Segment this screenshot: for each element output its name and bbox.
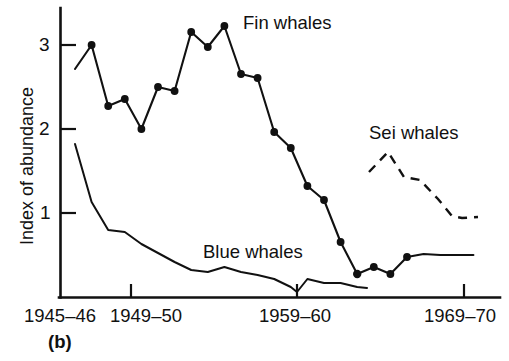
data-point-fin: [387, 270, 395, 278]
data-point-fin: [204, 43, 212, 51]
series-label-fin-whales: Fin whales: [243, 14, 331, 33]
data-point-fin: [171, 87, 179, 95]
figure-panel-b: Index of abundance 3 2 1 1945–46 1949–50…: [0, 0, 509, 361]
data-point-fin: [337, 238, 345, 246]
data-point-fin: [353, 270, 361, 278]
series-line-sei-whales: [369, 152, 478, 218]
data-point-fin: [138, 125, 146, 133]
data-point-fin: [187, 28, 195, 36]
data-point-fin: [154, 83, 162, 91]
data-point-fin: [403, 253, 411, 261]
x-tick-label-1969-70: 1969–70: [424, 307, 496, 326]
x-tick-label-1945-46: 1945–46: [24, 307, 96, 326]
x-tick-label-1959-60: 1959–60: [259, 307, 331, 326]
data-point-fin: [304, 182, 312, 190]
series-label-sei-whales: Sei whales: [369, 124, 458, 143]
data-point-fin: [104, 102, 112, 110]
data-point-fin: [370, 263, 378, 271]
series-label-blue-whales: Blue whales: [203, 243, 303, 262]
y-tick-label-1: 1: [40, 203, 51, 222]
data-point-fin: [121, 95, 129, 103]
data-point-fin: [221, 22, 229, 30]
data-point-fin: [254, 74, 262, 82]
figure-caption: (b): [48, 333, 72, 352]
data-point-fin: [287, 144, 295, 152]
data-point-fin: [320, 196, 328, 204]
x-tick-label-1949-50: 1949–50: [110, 307, 182, 326]
y-tick-label-3: 3: [39, 35, 50, 54]
series-line-fin-whales: [75, 26, 473, 274]
y-tick-label-2: 2: [39, 119, 50, 138]
data-point-fin: [237, 70, 245, 78]
data-point-fin: [270, 128, 278, 136]
series-line-blue-whales: [75, 144, 367, 292]
data-point-fin: [88, 41, 96, 49]
y-axis-title: Index of abundance: [18, 87, 36, 245]
